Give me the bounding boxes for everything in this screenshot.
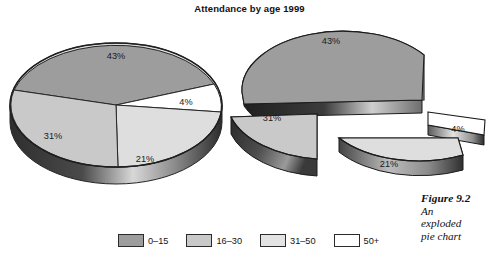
- pie-label-21: 21%: [136, 154, 154, 164]
- pie-label-43: 43%: [107, 51, 125, 61]
- figure-number: Figure 9.2: [421, 192, 497, 205]
- figure-caption: Figure 9.2 An exploded pie chart: [421, 192, 497, 242]
- chart-legend: 0–15 16–30 31–50 50+: [118, 234, 392, 247]
- figure-caption-line-3: pie chart: [421, 230, 497, 243]
- exploded-label-4: 4%: [451, 124, 464, 134]
- legend-swatch-0-15: [118, 234, 144, 247]
- legend-label-0-15: 0–15: [148, 236, 168, 246]
- legend-swatch-16-30: [186, 234, 212, 247]
- legend-item-31-50: 31–50: [260, 234, 316, 247]
- legend-label-50-plus: 50+: [364, 236, 380, 246]
- legend-swatch-31-50: [260, 234, 286, 247]
- pie-label-31: 31%: [44, 131, 62, 141]
- exploded-label-21: 21%: [380, 159, 398, 169]
- pie-chart-standard: 43% 4% 31% 21%: [2, 22, 234, 210]
- exploded-slice-31-50: 21%: [339, 138, 463, 176]
- legend-swatch-50-plus: [334, 234, 360, 247]
- exploded-slice-16-30: 31%: [231, 113, 317, 176]
- legend-label-31-50: 31–50: [290, 236, 316, 246]
- legend-item-50-plus: 50+: [334, 234, 380, 247]
- figure-caption-line-2: exploded: [421, 217, 497, 230]
- legend-item-16-30: 16–30: [186, 234, 242, 247]
- figure-caption-line-1: An: [421, 205, 497, 218]
- legend-label-16-30: 16–30: [216, 236, 242, 246]
- pie-chart-exploded: 43% 31% 4% 21%: [228, 14, 490, 219]
- chart-title: Attendance by age 1999: [0, 3, 499, 14]
- pie-slice-31-50: [116, 105, 221, 167]
- exploded-slice-0-15: 43%: [242, 31, 424, 117]
- legend-item-0-15: 0–15: [118, 234, 168, 247]
- figure-page: art Attendance by age 1999 43% 4: [0, 0, 499, 261]
- exploded-label-31: 31%: [263, 113, 281, 123]
- pie-label-4: 4%: [179, 97, 192, 107]
- exploded-label-43: 43%: [322, 36, 340, 46]
